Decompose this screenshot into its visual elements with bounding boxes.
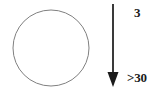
arrow-bottom-label: >30 xyxy=(127,71,147,84)
arrow-head-icon xyxy=(108,72,119,87)
downward-arrow xyxy=(108,4,119,87)
arrow-top-label: 3 xyxy=(134,6,140,19)
circle-outline xyxy=(13,10,89,86)
diagram-canvas: 3 >30 xyxy=(0,0,160,94)
